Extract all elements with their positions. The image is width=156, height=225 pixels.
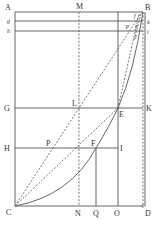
- label-A: A: [5, 3, 11, 12]
- label-I: I: [120, 144, 123, 153]
- label-L: L: [72, 99, 77, 108]
- label-h: h: [7, 28, 10, 34]
- label-M: M: [76, 2, 83, 11]
- label-e: e: [135, 23, 138, 29]
- label-i: i: [147, 29, 149, 35]
- label-g: g: [7, 18, 10, 24]
- label-O: O: [114, 209, 120, 218]
- label-E: E: [119, 110, 124, 119]
- label-C: C: [6, 208, 11, 217]
- label-G: G: [4, 104, 10, 113]
- dashed-C-to-E: [15, 108, 118, 206]
- dashed-C-to-B: [15, 12, 142, 206]
- label-f: f: [134, 13, 137, 19]
- label-D: D: [145, 209, 151, 218]
- label-K: K: [146, 104, 152, 113]
- label-p: p: [125, 23, 129, 29]
- geometric-diagram: A M B g h k i f p e l G L E K H P F I C …: [0, 0, 156, 225]
- label-Q: Q: [93, 209, 99, 218]
- label-B: B: [145, 3, 150, 12]
- label-P: P: [46, 139, 51, 148]
- label-l: l: [135, 34, 137, 40]
- label-H: H: [4, 144, 10, 153]
- diagram-svg: A M B g h k i f p e l G L E K H P F I C …: [0, 0, 156, 225]
- label-N: N: [75, 209, 81, 218]
- label-F: F: [91, 139, 96, 148]
- label-k: k: [147, 19, 150, 25]
